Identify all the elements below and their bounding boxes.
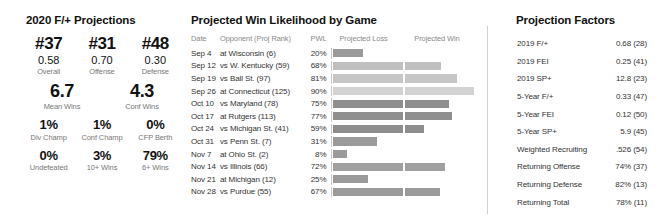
game-bar-cell bbox=[331, 60, 488, 73]
defense-value: 0.30 bbox=[129, 55, 182, 67]
game-pwl: 75% bbox=[303, 97, 331, 110]
bar-axis-tick bbox=[331, 174, 332, 185]
bar-axis-tick bbox=[331, 111, 332, 122]
bar-axis-tick bbox=[331, 86, 332, 97]
rank-stat-row: #37 0.58 Overall #31 0.70 Offense #48 0.… bbox=[22, 35, 182, 76]
six-plus-wins-value: 79% bbox=[129, 149, 182, 163]
win-likelihood-bar bbox=[331, 135, 472, 148]
projected-loss-segment bbox=[333, 175, 368, 183]
game-date: Oct 10 bbox=[191, 97, 220, 110]
factor-name: 5-Year FEI bbox=[516, 105, 606, 123]
factor-name: 2019 SP+ bbox=[516, 70, 606, 88]
conf-champ-stat: 1% Conf Champ bbox=[75, 118, 128, 142]
conf-champ-value: 1% bbox=[75, 118, 128, 132]
overall-label: Overall bbox=[22, 68, 75, 76]
game-date: Sep 4 bbox=[191, 47, 220, 60]
schedule-header-row: Date Opponent (Proj Rank) PWL Projected … bbox=[191, 34, 488, 47]
game-pwl: 67% bbox=[303, 186, 331, 199]
game-date: Sep 12 bbox=[191, 60, 220, 73]
defense-rank: #48 bbox=[129, 35, 182, 53]
projected-win-segment bbox=[405, 87, 474, 95]
cfp-berth-stat: 0% CFP Berth bbox=[129, 118, 182, 142]
projected-loss-segment bbox=[333, 49, 362, 57]
game-bar-cell bbox=[331, 97, 488, 110]
table-row: Sep 26at Connecticut (125)90% bbox=[191, 85, 488, 98]
game-pwl: 68% bbox=[303, 60, 331, 73]
championship-stat-row: 1% Div Champ 1% Conf Champ 0% CFP Berth bbox=[22, 118, 182, 142]
game-opponent: at Rutgers (113) bbox=[220, 110, 303, 123]
table-row: Oct 10vs Maryland (78)75% bbox=[191, 97, 488, 110]
win-likelihood-bar bbox=[331, 97, 472, 110]
projection-dashboard: 2020 F/+ Projections #37 0.58 Overall #3… bbox=[0, 0, 662, 223]
overall-value: 0.58 bbox=[22, 55, 75, 67]
list-item: Returning Offense74% (37) bbox=[516, 158, 648, 176]
projected-win-segment bbox=[405, 74, 457, 82]
game-bar-cell bbox=[331, 135, 488, 148]
win-likelihood-bar bbox=[331, 60, 472, 73]
projected-win-segment bbox=[405, 163, 445, 171]
conf-wins-label: Conf Wins bbox=[102, 103, 182, 111]
projected-win-segment bbox=[405, 100, 449, 108]
conf-wins-stat: 4.3 Conf Wins bbox=[102, 82, 182, 111]
game-date: Nov 28 bbox=[191, 186, 220, 199]
ten-plus-wins-stat: 3% 10+ Wins bbox=[75, 149, 128, 173]
game-date: Sep 26 bbox=[191, 85, 220, 98]
offense-label: Offense bbox=[75, 68, 128, 76]
factor-name: 5-Year SP+ bbox=[516, 123, 606, 141]
schedule-panel: Projected Win Likelihood by Game Date Op… bbox=[191, 14, 491, 198]
table-row: Sep 19vs Ball St. (97)81% bbox=[191, 72, 488, 85]
game-opponent: at Connecticut (125) bbox=[220, 85, 303, 98]
win-likelihood-bar bbox=[331, 160, 472, 173]
factor-name: 2019 F/+ bbox=[516, 35, 606, 53]
undefeated-value: 0% bbox=[22, 149, 75, 163]
table-row: Oct 24vs Michigan St. (41)59% bbox=[191, 123, 488, 136]
projected-loss-segment bbox=[333, 87, 403, 95]
game-date: Oct 17 bbox=[191, 110, 220, 123]
game-bar-cell bbox=[331, 160, 488, 173]
factor-name: Returning Defense bbox=[516, 176, 606, 194]
offense-stat: #31 0.70 Offense bbox=[75, 35, 128, 76]
factors-panel-title: Projection Factors bbox=[516, 14, 648, 26]
win-likelihood-bar bbox=[331, 148, 472, 161]
game-pwl: 77% bbox=[303, 110, 331, 123]
projected-win-segment bbox=[405, 112, 451, 120]
win-likelihood-bar bbox=[331, 110, 472, 123]
projected-loss-segment bbox=[333, 188, 403, 196]
mean-wins-label: Mean Wins bbox=[22, 103, 102, 111]
factor-value: 12.8 (23) bbox=[606, 70, 648, 88]
div-champ-label: Div Champ bbox=[22, 134, 75, 142]
game-opponent: at Wisconsin (6) bbox=[220, 47, 303, 60]
mean-wins-value: 6.7 bbox=[22, 82, 102, 101]
projected-win-segment bbox=[405, 62, 441, 70]
win-likelihood-bar bbox=[331, 47, 472, 60]
factor-value: 78% (11) bbox=[606, 193, 648, 211]
bar-axis-tick bbox=[331, 161, 332, 172]
bar-axis-tick bbox=[331, 136, 332, 147]
factor-name: Weighted Recruiting bbox=[516, 141, 606, 159]
overall-stat: #37 0.58 Overall bbox=[22, 35, 75, 76]
table-row: Nov 28vs Purdue (55)67% bbox=[191, 186, 488, 199]
bar-axis-tick bbox=[331, 73, 332, 84]
factor-name: 5-Year F/+ bbox=[516, 88, 606, 106]
bar-axis-tick bbox=[331, 187, 332, 198]
projected-loss-segment bbox=[333, 74, 403, 82]
record-stat-row: 0% Undefeated 3% 10+ Wins 79% 6+ Wins bbox=[22, 149, 182, 173]
wins-stat-row: 6.7 Mean Wins 4.3 Conf Wins bbox=[22, 82, 182, 111]
list-item: 5-Year SP+5.9 (45) bbox=[516, 123, 648, 141]
game-pwl: 25% bbox=[303, 173, 331, 186]
game-pwl: 81% bbox=[303, 72, 331, 85]
defense-stat: #48 0.30 Defense bbox=[129, 35, 182, 76]
factor-value: 74% (37) bbox=[606, 158, 648, 176]
bar-axis-tick bbox=[331, 98, 332, 109]
game-date: Oct 31 bbox=[191, 135, 220, 148]
panel-divider bbox=[487, 26, 488, 214]
schedule-panel-title: Projected Win Likelihood by Game bbox=[191, 14, 491, 26]
col-header-pwl: PWL bbox=[303, 34, 331, 47]
table-row: Nov 21at Michigan (12)25% bbox=[191, 173, 488, 186]
list-item: 5-Year FEI0.12 (50) bbox=[516, 105, 648, 123]
conf-champ-label: Conf Champ bbox=[75, 134, 128, 142]
table-row: Nov 7at Ohio St. (2)8% bbox=[191, 148, 488, 161]
factor-value: 0.68 (28) bbox=[606, 35, 648, 53]
list-item: 5-Year F/+0.33 (47) bbox=[516, 88, 648, 106]
list-item: Returning Defense82% (13) bbox=[516, 176, 648, 194]
